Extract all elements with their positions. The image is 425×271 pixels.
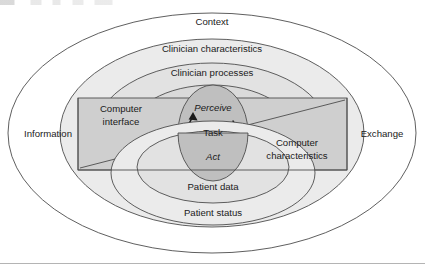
label-information: Information <box>24 128 72 139</box>
label-context: Context <box>195 16 228 27</box>
scan-artifact-top-edge <box>0 0 118 5</box>
label-computer-characteristics-line1: Computer <box>276 137 319 148</box>
label-perceive: Perceive <box>194 102 231 113</box>
label-task: Task <box>203 127 223 138</box>
figure-root: Context Clinician characteristics Clinic… <box>0 0 425 271</box>
label-act: Act <box>205 151 220 162</box>
label-clinician-processes: Clinician processes <box>171 67 254 78</box>
label-exchange: Exchange <box>361 128 404 139</box>
label-clinician-characteristics: Clinician characteristics <box>162 43 262 54</box>
label-patient-status: Patient status <box>184 207 242 218</box>
label-patient-data: Patient data <box>187 181 239 192</box>
concentric-ellipse-diagram: Context Clinician characteristics Clinic… <box>0 0 425 271</box>
label-computer-interface-line1: Computer <box>100 103 143 114</box>
label-computer-interface-line2: interface <box>103 116 140 127</box>
label-computer-characteristics-line2: characteristics <box>266 150 328 161</box>
